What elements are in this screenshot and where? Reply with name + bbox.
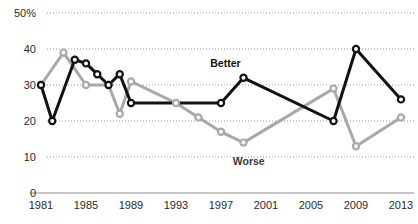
data-point-marker xyxy=(173,100,179,106)
data-point-marker xyxy=(128,78,134,84)
x-axis-tick-label: 2001 xyxy=(243,199,289,211)
x-axis-tick-label: 1985 xyxy=(63,199,109,211)
x-axis-tick-label: 1993 xyxy=(153,199,199,211)
data-point-marker xyxy=(353,46,359,52)
data-point-marker xyxy=(117,111,123,117)
x-axis-tick-label: 2013 xyxy=(378,199,418,211)
data-point-marker xyxy=(94,71,100,77)
data-point-marker xyxy=(195,114,201,120)
data-point-marker xyxy=(83,60,89,66)
data-point-marker xyxy=(60,50,66,56)
y-axis-tick-label: 0 xyxy=(2,187,36,199)
data-point-marker xyxy=(49,118,55,124)
x-axis-tick-label: 1981 xyxy=(18,199,64,211)
data-point-marker xyxy=(240,75,246,81)
data-point-marker xyxy=(218,100,224,106)
data-point-marker xyxy=(38,82,44,88)
data-point-marker xyxy=(330,118,336,124)
series-label-better: Better xyxy=(210,57,240,69)
y-axis-tick-label: 50% xyxy=(2,7,36,19)
data-point-marker xyxy=(240,140,246,146)
y-axis-tick-label: 30 xyxy=(2,79,36,91)
x-axis-tick-label: 2005 xyxy=(288,199,334,211)
data-point-marker xyxy=(398,114,404,120)
x-axis-tick-label: 1997 xyxy=(198,199,244,211)
data-point-marker xyxy=(72,57,78,63)
y-axis-tick-label: 40 xyxy=(2,43,36,55)
chart-plot-area xyxy=(0,0,418,224)
data-point-marker xyxy=(128,100,134,106)
y-axis-tick-label: 20 xyxy=(2,115,36,127)
series-label-worse: Worse xyxy=(233,155,265,167)
data-point-marker xyxy=(353,143,359,149)
y-axis-tick-label: 10 xyxy=(2,151,36,163)
data-point-marker xyxy=(105,82,111,88)
data-point-marker xyxy=(218,129,224,135)
data-point-marker xyxy=(117,71,123,77)
data-point-marker xyxy=(398,96,404,102)
x-axis-tick-label: 2009 xyxy=(333,199,379,211)
data-point-marker xyxy=(330,86,336,92)
data-point-marker xyxy=(83,82,89,88)
x-axis-tick-label: 1989 xyxy=(108,199,154,211)
chart-container: 01020304050% 198119851989199319972001200… xyxy=(0,0,418,224)
